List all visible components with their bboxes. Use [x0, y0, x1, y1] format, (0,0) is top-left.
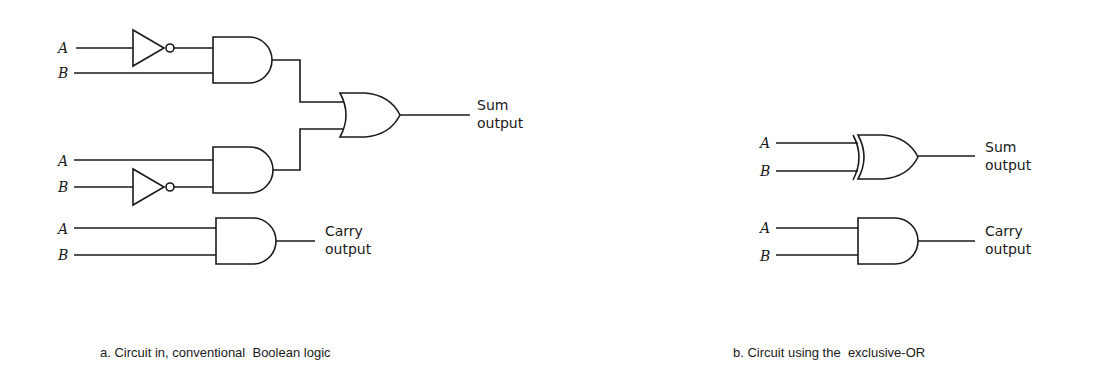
input-label-b1: B — [57, 65, 68, 81]
xor-back-curve — [853, 135, 859, 180]
sum-output-label-b-line1: Sum — [985, 139, 1016, 155]
input-label-b-a2: A — [758, 220, 770, 236]
not-bubble-1 — [166, 44, 174, 52]
input-label-b-b1: B — [759, 163, 770, 179]
sum-output-label-a-line2: output — [477, 115, 524, 131]
caption-panel-a: a. Circuit in, conventional Boolean logi… — [100, 345, 331, 360]
and-gate-b — [858, 218, 918, 264]
and-gate-1 — [213, 37, 272, 83]
sum-output-label-a-line1: Sum — [477, 97, 508, 113]
panel-b-circuit: A B Sum output A B Carry output — [758, 135, 1032, 264]
and-gate-2 — [213, 147, 273, 193]
input-label-b2: B — [57, 179, 68, 195]
input-label-b-b2: B — [759, 248, 770, 264]
and-gate-3 — [216, 218, 276, 264]
input-label-b-a1: A — [758, 135, 770, 151]
wire-and2-or — [273, 129, 343, 170]
panel-a-circuit: A B A B A B Sum output Carry output — [56, 30, 524, 264]
carry-output-label-a-line2: output — [325, 241, 372, 257]
xor-gate — [858, 135, 918, 179]
not-gate-1 — [133, 30, 164, 66]
carry-output-label-a-line1: Carry — [325, 223, 363, 239]
caption-panel-b: b. Circuit using the exclusive-OR — [733, 345, 925, 360]
or-gate — [340, 93, 400, 137]
wire-and1-or — [272, 60, 343, 102]
not-bubble-2 — [166, 183, 174, 191]
input-label-b3: B — [57, 247, 68, 263]
half-adder-diagram: A B A B A B Sum output Carry output — [0, 0, 1093, 379]
input-label-a2: A — [56, 153, 68, 169]
carry-output-label-b-line2: output — [985, 241, 1032, 257]
carry-output-label-b-line1: Carry — [985, 223, 1023, 239]
input-label-a3: A — [56, 221, 68, 237]
not-gate-2 — [133, 169, 164, 205]
input-label-a1: A — [56, 40, 68, 56]
sum-output-label-b-line2: output — [985, 157, 1032, 173]
